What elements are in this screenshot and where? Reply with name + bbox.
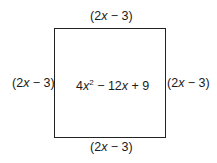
side-label-top: (2x − 3)	[90, 9, 133, 23]
area-expression: 4x2 − 12x + 9	[76, 76, 149, 93]
side-label-left: (2x − 3)	[12, 76, 55, 90]
side-label-right: (2x − 3)	[167, 76, 210, 90]
side-label-bottom: (2x − 3)	[90, 140, 133, 154]
